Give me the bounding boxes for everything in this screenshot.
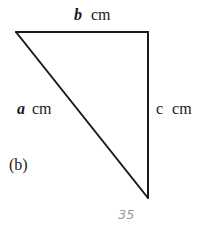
side-b-unit: cm [91,6,111,23]
handwritten-note: 35 [118,207,135,222]
side-c-label: c cm [156,100,192,117]
side-a-variable: a [17,100,25,117]
side-a-unit: cm [32,100,52,117]
side-c-variable: c [156,100,163,117]
side-a-label: a cm [17,100,52,117]
side-b-variable: b [74,6,82,23]
panel-label: (b) [9,156,28,174]
side-b-label: b cm [74,6,111,23]
triangle-diagram: b cm a cm c cm (b) 35 [0,0,198,225]
side-c-unit: cm [172,100,192,117]
